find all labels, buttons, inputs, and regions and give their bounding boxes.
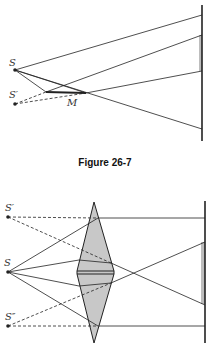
figure-biprism [6, 201, 205, 343]
virtual-ray-top-horizontal [8, 217, 98, 218]
source-point [6, 270, 10, 274]
biprism [77, 202, 114, 343]
virtual-source-bottom-point [6, 324, 10, 328]
label-virtual-source-top: S′ [5, 202, 15, 213]
reflected-ray-lower [86, 71, 202, 93]
virtual-ray-1 [15, 92, 46, 104]
diagram-canvas: S S′ M Figure 26-7 [0, 0, 211, 359]
label-virtual-source: S′ [9, 89, 19, 100]
figure-lloyds-mirror [13, 5, 202, 141]
reflected-ray-upper [46, 35, 202, 92]
ray-inner-lower-out [111, 242, 205, 283]
virtual-source-point [13, 102, 17, 106]
ray-top [15, 15, 202, 70]
ray-s-inner-lower [8, 272, 79, 286]
label-mirror: M [66, 97, 78, 108]
virtual-source-top-point [6, 215, 10, 219]
label-source: S [4, 257, 11, 268]
ray-to-mirror-left [15, 70, 46, 92]
figure-caption: Figure 26-7 [78, 157, 132, 168]
ray-inner-upper-out [111, 263, 205, 305]
mirror [46, 92, 86, 93]
source-point [13, 68, 17, 72]
label-source: S [9, 57, 16, 68]
label-virtual-source-bottom: S″ [5, 311, 16, 322]
